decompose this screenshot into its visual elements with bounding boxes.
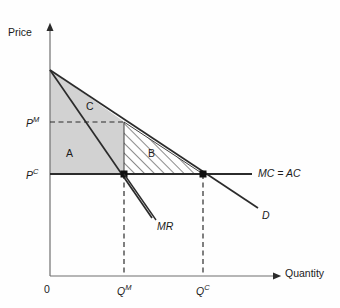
x-axis-label: Quantity [285,268,324,279]
region-b-label: B [148,148,155,159]
quantity-tick-qm-base: Q [117,285,125,297]
price-tick-pc: PC [26,168,38,180]
y-axis-label: Price [8,27,32,38]
quantity-tick-qc: QC [196,284,210,296]
diagram-canvas [0,0,340,308]
marginal-revenue-curve-label: MR [157,221,173,232]
qc-intersection-marker [200,171,207,178]
marginal-cost-curve-label: MC = AC [258,168,301,179]
region-c-label: C [86,101,94,112]
region-a-shape [50,122,124,174]
region-a-label: A [66,148,73,159]
quantity-tick-qc-base: Q [196,285,204,297]
quantity-tick-qm: QM [117,284,131,296]
price-tick-pc-base: P [26,169,33,181]
price-tick-pc-superscript: C [33,167,38,176]
quantity-tick-qc-superscript: C [204,283,209,292]
mr-label-leader [124,174,156,220]
price-tick-pm-base: P [26,117,33,129]
economics-diagram: Price Quantity 0 PM PC QM QC D MR MC = A… [0,0,340,308]
origin-label: 0 [44,284,50,295]
price-tick-pm-superscript: M [33,115,39,124]
demand-curve-label: D [262,210,270,221]
price-tick-pm: PM [26,116,39,128]
quantity-tick-qm-superscript: M [125,283,131,292]
